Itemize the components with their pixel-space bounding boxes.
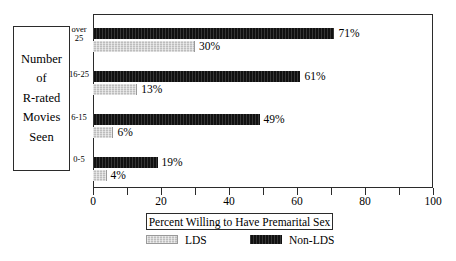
bar-non-lds-16-25 [93,71,300,82]
x-tick-70 [331,188,332,195]
y-axis-title-line-2: of [36,69,46,88]
bar-value-non-lds-16-25: 61% [304,71,325,82]
bar-value-non-lds-0-5: 19% [162,157,183,168]
bar-non-lds-over-25 [93,28,334,39]
x-tick-0 [93,188,94,195]
y-axis-title-line-3: R-rated [23,89,60,108]
legend-entry-lds: LDS [146,233,207,246]
bar-value-lds-16-25: 13% [141,84,162,95]
x-axis-label-80: 80 [359,195,371,208]
x-tick-40 [229,188,230,195]
x-tick-50 [263,188,264,195]
legend-entry-non-lds: Non-LDS [250,233,334,246]
x-tick-80 [365,188,366,195]
bar-value-lds-0-5: 4% [111,170,126,181]
category-label-over-25-line2: 25 [66,34,92,43]
bar-non-lds-6-15 [93,114,260,125]
category-label-16-25: 16-25 [66,70,92,79]
legend-label-lds: LDS [185,234,207,246]
x-tick-100 [433,188,434,195]
category-label-16-25-line1: 16-25 [66,70,92,79]
bar-lds-6-15 [93,127,113,138]
category-label-6-15: 6-15 [66,113,92,122]
bar-value-non-lds-6-15: 49% [264,114,285,125]
x-axis-labels: 020406080100 [93,195,434,209]
legend-label-non-lds: Non-LDS [289,234,334,246]
x-tick-90 [399,188,400,195]
bar-lds-0-5 [93,170,107,181]
legend-entries: LDS Non-LDS [146,233,366,248]
legend-swatch-lds-icon [146,235,178,244]
bar-lds-16-25 [93,84,137,95]
y-axis-title-box: Number of R-rated Movies Seen [13,26,70,171]
category-label-6-15-line1: 6-15 [66,113,92,122]
bar-chart: Number of R-rated Movies Seen over 25 16… [0,0,456,261]
x-axis-label-40: 40 [223,195,235,208]
category-label-over-25: over 25 [66,25,92,43]
x-tick-60 [297,188,298,195]
x-axis-label-20: 20 [155,195,167,208]
x-axis-label-0: 0 [90,195,96,208]
x-axis-label-100: 100 [424,195,441,208]
x-axis-label-60: 60 [291,195,303,208]
y-axis-title-line-4: Movies [23,108,61,127]
y-axis-title-line-5: Seen [29,128,53,147]
category-label-0-5: 0-5 [66,155,92,164]
x-tick-30 [195,188,196,195]
plot-area: 71%30%61%13%49%6%19%4% [93,14,433,188]
bar-value-non-lds-over-25: 71% [338,28,359,39]
legend-swatch-non-lds-icon [250,235,282,244]
x-tick-20 [161,188,162,195]
legend-title-box: Percent Willing to Have Premarital Sex [146,213,333,230]
bar-value-lds-over-25: 30% [199,41,220,52]
legend-title: Percent Willing to Have Premarital Sex [149,216,331,228]
x-tick-10 [127,188,128,195]
y-axis-title-line-1: Number [21,50,62,69]
bar-value-lds-6-15: 6% [117,127,132,138]
category-label-0-5-line1: 0-5 [66,155,92,164]
bar-non-lds-0-5 [93,157,158,168]
bar-lds-over-25 [93,41,195,52]
